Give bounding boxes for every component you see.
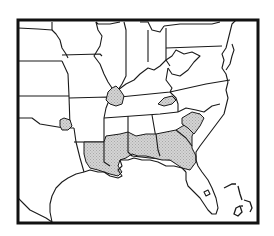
range-map [0,0,274,236]
island-dot [241,205,243,207]
range-se-oklahoma [60,118,72,130]
map-body [18,20,258,223]
